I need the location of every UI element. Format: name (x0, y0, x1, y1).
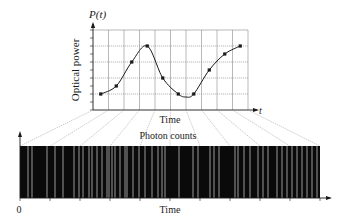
fan-line (248, 110, 320, 146)
sample-point (239, 44, 242, 47)
y-axis-arrow-icon (91, 22, 95, 28)
photon-counting-diagram: P(t) Optical power t Time Photon counts … (0, 0, 343, 221)
count-axis-arrow-icon (18, 131, 22, 137)
sample-point (99, 92, 102, 95)
y-symbol-label: P(t) (88, 8, 106, 21)
fan-line (50, 110, 109, 146)
top-plot-grid (93, 30, 248, 110)
fan-line (20, 110, 93, 146)
fan-line (110, 110, 140, 146)
bottom-time-label: Time (160, 204, 181, 215)
sample-point (115, 84, 118, 87)
sample-point (223, 52, 226, 55)
sample-point (208, 68, 211, 71)
sample-point (192, 92, 195, 95)
fan-line (202, 110, 231, 146)
photon-count-strip (20, 146, 320, 198)
y-axis-label: Optical power (69, 38, 81, 101)
sample-point (130, 60, 133, 63)
top-plot-axes (90, 22, 259, 112)
sample-point (161, 76, 164, 79)
fan-line (80, 110, 124, 146)
fan-line (217, 110, 260, 146)
origin-label: 0 (17, 204, 22, 215)
x-symbol-label: t (259, 105, 262, 116)
sample-point (146, 44, 149, 47)
photon-counts-title: Photon counts (140, 130, 197, 141)
time-axis-arrow-icon (326, 196, 332, 200)
sample-point (177, 92, 180, 95)
